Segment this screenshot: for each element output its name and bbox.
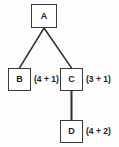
tree-node-c[interactable]: C [60,68,83,91]
tree-node-d-annotation: (4 + 2) [86,127,111,136]
tree-node-d[interactable]: D [60,120,83,143]
tree-node-a-label: A [41,12,48,21]
tree-node-b-label: B [16,75,23,84]
tree-node-c-annotation: (3 + 1) [86,75,111,84]
tree-diagram: A B (4 + 1) C (3 + 1) D (4 + 2) [0,0,119,147]
tree-node-a[interactable]: A [31,4,57,28]
tree-node-d-label: D [68,127,75,136]
tree-node-b[interactable]: B [8,68,31,91]
tree-node-b-annotation: (4 + 1) [34,75,59,84]
edge-a-b [20,28,45,68]
tree-node-c-label: C [68,75,75,84]
edge-a-c [44,28,72,68]
